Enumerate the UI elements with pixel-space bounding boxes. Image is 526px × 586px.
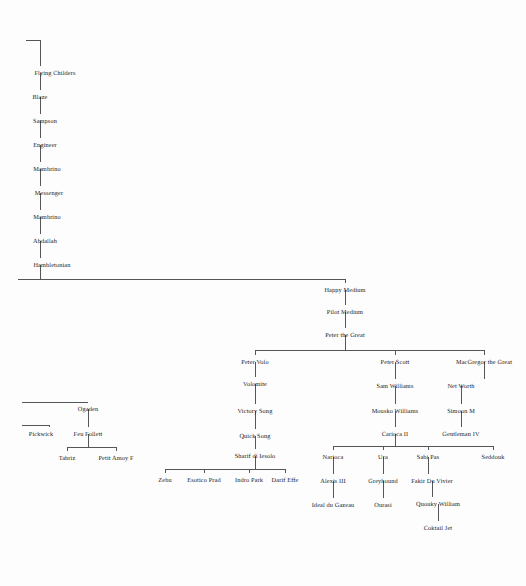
pedigree-node-mambrino-2: Mambrino — [33, 215, 61, 221]
pedigree-node-esotico-prad: Esotico Prad — [187, 478, 220, 484]
pedigree-node-sampson: Sampson — [33, 119, 57, 125]
pedigree-node-label: Abdallah — [33, 239, 57, 245]
pedigree-node-volomite: Volomite — [243, 382, 267, 388]
pedigree-node-macgregor-the-great: MacGregor the Great — [456, 360, 512, 366]
pedigree-node-label: Pilot Medium — [327, 310, 363, 316]
pedigree-node-hambletonian: Hambletonian — [33, 263, 70, 269]
pedigree-node-alexis-iii: Alexis III — [320, 479, 346, 485]
pedigree-node-label: Hambletonian — [33, 263, 70, 269]
pedigree-node-sabi-pas: Sabi Pas — [417, 455, 439, 461]
pedigree-node-blaze: Blaze — [33, 95, 48, 101]
pedigree-node-label: Mousko Williams — [372, 409, 419, 415]
pedigree-node-zebu: Zebu — [158, 478, 171, 484]
pedigree-node-victory-song: Victory Song — [238, 409, 273, 415]
pedigree-node-carioca-ii: Carioca II — [382, 432, 409, 438]
pedigree-node-label: Ourasi — [374, 503, 392, 509]
pedigree-node-label: Volomite — [243, 382, 267, 388]
pedigree-node-sam-williams: Sam Williams — [377, 384, 414, 390]
pedigree-node-label: Esotico Prad — [187, 478, 220, 484]
pedigree-node-label: Darif Effe — [272, 478, 299, 484]
pedigree-node-coktail-jet: Coktail Jet — [424, 526, 452, 532]
pedigree-node-happy-medium: Happy Medium — [324, 288, 365, 294]
pedigree-node-label: MacGregor the Great — [456, 360, 512, 366]
edge-top-bracket — [26, 40, 40, 66]
pedigree-node-label: Quick Song — [239, 434, 270, 440]
pedigree-node-fakir-du-vivier: Fakir Du Vivier — [411, 479, 453, 485]
pedigree-node-ideal-du-gazeau: Ideal du Gazeau — [312, 503, 355, 509]
pedigree-node-label: Feu Follett — [74, 432, 103, 438]
pedigree-node-label: Petit Amoy F — [98, 456, 133, 462]
pedigree-edge-layer — [0, 0, 526, 586]
pedigree-node-label: Blaze — [33, 95, 48, 101]
pedigree-node-gentleman-iv: Gentleman IV — [442, 432, 479, 438]
pedigree-node-label: Seddouk — [482, 455, 505, 461]
pedigree-node-simoon-m: Simoon M — [447, 409, 475, 415]
pedigree-node-flying-childers: Flying Childers — [34, 71, 75, 77]
pedigree-node-label: Engineer — [33, 143, 57, 149]
pedigree-node-ura: Ura — [378, 455, 388, 461]
pedigree-node-quouky-william: Quouky William — [416, 502, 460, 508]
pedigree-node-label: Indro Park — [235, 478, 263, 484]
pedigree-node-label: Peter Scott — [381, 360, 410, 366]
pedigree-node-label: Happy Medium — [324, 288, 365, 294]
pedigree-node-label: Sampson — [33, 119, 57, 125]
pedigree-node-label: Victory Song — [238, 409, 273, 415]
pedigree-node-label: Pickwick — [29, 432, 53, 438]
pedigree-node-abdallah: Abdallah — [33, 239, 57, 245]
pedigree-node-mambrino-1: Mambrino — [33, 167, 61, 173]
pedigree-node-mousko-williams: Mousko Williams — [372, 409, 419, 415]
pedigree-node-peter-scott: Peter Scott — [381, 360, 410, 366]
pedigree-chart: Flying ChildersBlazeSampsonEngineerMambr… — [0, 0, 526, 586]
pedigree-node-label: Peter Volo — [241, 360, 268, 366]
pedigree-node-label: Mambrino — [33, 167, 61, 173]
pedigree-node-label: Sam Williams — [377, 384, 414, 390]
pedigree-node-ourasi: Ourasi — [374, 503, 392, 509]
pedigree-node-label: Simoon M — [447, 409, 475, 415]
pedigree-node-label: Peter the Great — [325, 333, 365, 339]
pedigree-node-engineer: Engineer — [33, 143, 57, 149]
pedigree-node-label: Sharif di Iesolo — [235, 454, 276, 460]
pedigree-node-label: Gentleman IV — [442, 432, 479, 438]
pedigree-node-peter-volo: Peter Volo — [241, 360, 268, 366]
pedigree-node-label: Coktail Jet — [424, 526, 452, 532]
pedigree-node-label: Net Worth — [447, 384, 474, 390]
pedigree-node-sharif-di-iesolo: Sharif di Iesolo — [235, 454, 276, 460]
pedigree-node-label: Quouky William — [416, 502, 460, 508]
pedigree-node-label: Ideal du Gazeau — [312, 503, 355, 509]
pedigree-node-pickwick: Pickwick — [29, 432, 53, 438]
pedigree-node-label: Ogaden — [78, 407, 98, 413]
pedigree-node-label: Narioca — [323, 455, 344, 461]
pedigree-node-narioca: Narioca — [323, 455, 344, 461]
pedigree-node-label: Sabi Pas — [417, 455, 439, 461]
pedigree-node-seddouk: Seddouk — [482, 455, 505, 461]
pedigree-node-tabriz: Tabriz — [59, 456, 76, 462]
pedigree-node-peter-the-great: Peter the Great — [325, 333, 365, 339]
pedigree-node-label: Alexis III — [320, 479, 346, 485]
pedigree-node-feu-follett: Feu Follett — [74, 432, 103, 438]
pedigree-node-quick-song: Quick Song — [239, 434, 270, 440]
pedigree-node-label: Ura — [378, 455, 388, 461]
pedigree-node-pilot-medium: Pilot Medium — [327, 310, 363, 316]
pedigree-node-label: Flying Childers — [34, 71, 75, 77]
pedigree-node-ogaden: Ogaden — [78, 407, 98, 413]
pedigree-node-indro-park: Indro Park — [235, 478, 263, 484]
pedigree-node-label: Mambrino — [33, 215, 61, 221]
pedigree-node-label: Tabriz — [59, 456, 76, 462]
pedigree-node-label: Carioca II — [382, 432, 409, 438]
pedigree-node-label: Zebu — [158, 478, 171, 484]
pedigree-node-petit-amoy-f: Petit Amoy F — [98, 456, 133, 462]
pedigree-node-darif-effe: Darif Effe — [272, 478, 299, 484]
pedigree-node-label: Greyhound — [368, 479, 397, 485]
pedigree-node-label: Fakir Du Vivier — [411, 479, 453, 485]
pedigree-node-greyhound: Greyhound — [368, 479, 397, 485]
pedigree-node-label: Messenger — [35, 191, 63, 197]
pedigree-node-net-worth: Net Worth — [447, 384, 474, 390]
edge-pickwick-inbar — [22, 425, 49, 427]
pedigree-node-messenger: Messenger — [35, 191, 63, 197]
